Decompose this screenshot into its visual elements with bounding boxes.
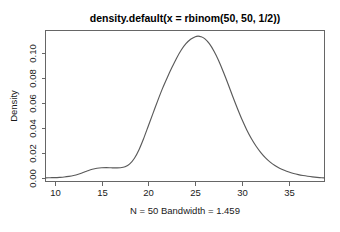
- y-tick-label: 0.06: [27, 94, 38, 113]
- x-tick-label: 35: [284, 187, 295, 198]
- y-axis-title: Density: [8, 90, 19, 122]
- x-axis-subtitle: N = 50 Bandwidth = 1.459: [130, 205, 240, 216]
- x-tick-label: 20: [143, 187, 154, 198]
- plot-title: density.default(x = rbinom(50, 50, 1/2)): [90, 12, 280, 24]
- density-plot-figure: density.default(x = rbinom(50, 50, 1/2))…: [0, 0, 340, 232]
- y-tick-label: 0.02: [27, 144, 38, 163]
- y-tick-label: 0.00: [27, 169, 38, 188]
- x-tick-label: 30: [237, 187, 248, 198]
- y-tick-label: 0.10: [27, 44, 38, 63]
- y-tick-label: 0.08: [27, 69, 38, 88]
- x-tick-label: 10: [50, 187, 61, 198]
- x-tick-label: 25: [190, 187, 201, 198]
- x-tick-label: 15: [97, 187, 108, 198]
- y-tick-label: 0.04: [27, 119, 38, 138]
- chart-canvas: density.default(x = rbinom(50, 50, 1/2))…: [0, 0, 340, 232]
